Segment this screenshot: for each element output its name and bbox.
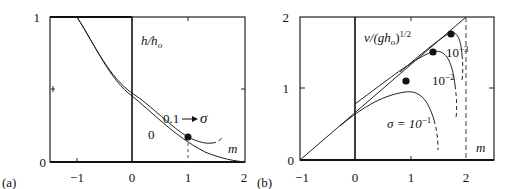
panel-a: 1 0 −1 0 1 2 (a) h/ho 0.1 σ 0 m — [2, 10, 247, 189]
panel-b-xtick-0: 0 — [352, 170, 359, 185]
marker-sigma-1e-1 — [402, 77, 409, 84]
sigma-symbol: σ — [200, 110, 208, 126]
marker-sigma-1e-2 — [429, 48, 436, 55]
panel-b-xtick-m1: −1 — [295, 170, 309, 185]
panel-b-ylabel: v/(gho)1/2 — [364, 29, 411, 47]
sigma-0-label: 0 — [148, 127, 155, 142]
panel-a-xlabel: m — [228, 141, 237, 156]
curve-sigma-1e-1-dashed — [434, 120, 438, 150]
panel-a-xtick-1: 1 — [185, 170, 192, 185]
panel-a-ytick-0: 0 — [40, 155, 47, 170]
panel-a-ylabel: h/ho — [141, 33, 163, 50]
arrow-head-icon — [192, 116, 198, 122]
label-sigma-1e-2: 10−2 — [432, 72, 455, 88]
panel-b-ytick-1: 1 — [283, 81, 290, 96]
panel-a-xtick-0: 0 — [129, 170, 136, 185]
curve-sigma-1e-2-dashed — [455, 85, 457, 118]
marker-sigma-1e-3 — [447, 30, 454, 37]
panel-b-xtick-2: 2 — [463, 170, 470, 185]
label-sigma-1e-1: σ = 10−1 — [387, 115, 431, 131]
panel-a-xtick-2: 2 — [241, 170, 248, 185]
sigma-0.1-label: 0.1 — [163, 111, 179, 126]
panel-a-label: (a) — [2, 175, 16, 189]
curve-sigma-1e-3-dashed — [462, 55, 463, 80]
panel-b-ytick-0: 0 — [288, 153, 295, 168]
panel-b-xtick-1: 1 — [408, 170, 415, 185]
panel-a-marker — [185, 134, 192, 141]
panel-a-ytick-1: 1 — [34, 10, 41, 25]
curve-sigma-0.1-dashed — [212, 137, 222, 143]
panel-b-xlabel: m — [476, 140, 485, 155]
panel-b: 2 1 0 −1 0 1 2 (b) v/(gho)1/2 σ = 10−1 1… — [257, 10, 494, 189]
figure: 1 0 −1 0 1 2 (a) h/ho 0.1 σ 0 m — [0, 0, 513, 189]
panel-b-ytick-2: 2 — [283, 10, 290, 25]
panel-a-xtick-m1: −1 — [70, 170, 84, 185]
panel-b-label: (b) — [257, 175, 272, 189]
